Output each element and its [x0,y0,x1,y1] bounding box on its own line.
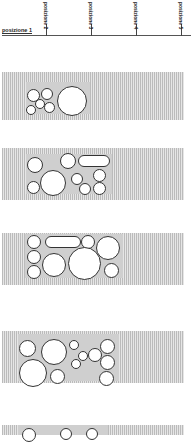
circle [60,153,76,169]
irregular-shape [45,236,81,248]
circle [44,102,55,113]
circle [27,235,41,249]
circle [69,340,79,350]
circle [100,355,115,370]
position-5-label: posizione 5 [178,2,184,29]
circle-large [40,170,66,196]
position-4-label: posizione 4 [133,2,139,29]
axis-line [2,35,191,36]
circle [27,250,41,264]
circle [99,371,114,386]
position-1-label: posizione 1 [2,27,32,34]
circle [104,263,119,278]
circle-large [68,247,101,280]
circle [50,369,65,384]
position-3-panel [2,233,184,285]
position-4-panel [2,331,184,383]
circle [86,428,98,440]
circle [93,182,106,195]
circle-large [42,253,66,277]
position-2-label: posizione 2 [43,2,49,29]
circle [22,428,36,442]
circle [27,157,43,173]
irregular-shape [78,155,110,167]
position-3-tick: posizione 3 [91,0,92,36]
position-5-tick: posizione 5 [181,0,182,36]
circle [27,265,41,279]
circle [79,183,91,195]
position-5-panel [2,425,184,435]
circle [71,359,81,369]
circle-large [41,339,67,365]
circle-large [19,359,47,387]
circle [27,181,40,194]
circle [100,339,115,354]
circle [60,428,72,440]
circle [26,105,36,115]
circle [93,169,106,182]
position-4-tick: posizione 4 [136,0,137,36]
circle [41,88,53,100]
circle [19,340,36,357]
position-2-tick: posizione 2 [46,0,47,36]
circle-large [57,86,87,116]
position-2-panel [2,148,184,200]
position-1-panel [2,72,184,120]
position-3-label: posizione 3 [88,2,94,29]
